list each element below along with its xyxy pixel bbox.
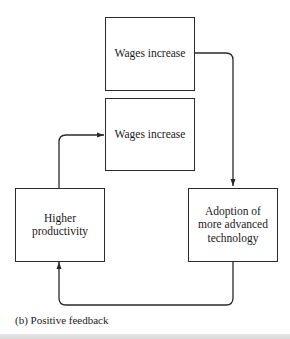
arrow-right-to-left (59, 261, 233, 305)
node-adoption-of-technology: Adoption of more advanced technology (188, 188, 278, 262)
node-label-line2: productivity (32, 225, 88, 239)
bottom-gray-band (0, 334, 290, 339)
node-label-line1: Higher (32, 212, 88, 226)
node-higher-productivity: Higher productivity (15, 188, 105, 262)
node-label-line2: more advanced (198, 218, 268, 232)
node-label: Wages increase (115, 128, 186, 142)
node-wages-increase-top: Wages increase (105, 17, 195, 91)
node-label: Wages increase (115, 47, 186, 61)
arrow-top-to-right (194, 53, 233, 186)
arrow-left-to-middle (59, 135, 104, 188)
figure-caption: (b) Positive feedback (15, 314, 108, 326)
node-label-line1: Adoption of (198, 205, 268, 219)
node-label-line3: technology (198, 232, 268, 246)
node-wages-increase-middle: Wages increase (105, 98, 195, 171)
